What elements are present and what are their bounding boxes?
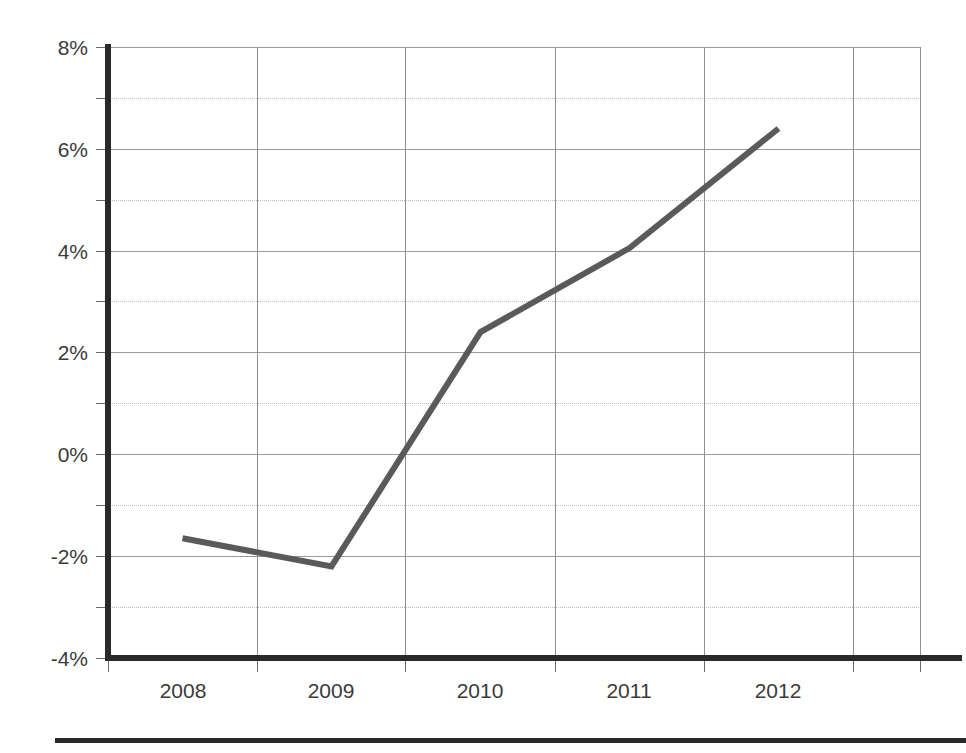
- y-tick-label: 6%: [58, 138, 88, 161]
- y-tick-label: -2%: [51, 545, 88, 568]
- x-tick-label: 2011: [606, 679, 651, 702]
- x-tick-label: 2010: [457, 679, 504, 702]
- chart-container: 8% 6% 4% 2% 0% -2% -4% 2008 2009 2010 20…: [0, 0, 966, 753]
- chart-background: [0, 0, 966, 753]
- x-tick-label: 2008: [160, 679, 207, 702]
- y-tick-label: 2%: [58, 341, 88, 364]
- y-tick-label: 8%: [58, 36, 88, 59]
- line-chart: 8% 6% 4% 2% 0% -2% -4% 2008 2009 2010 20…: [0, 0, 966, 753]
- y-tick-label: 0%: [58, 443, 88, 466]
- y-tick-label: -4%: [51, 647, 88, 670]
- x-tick-label: 2012: [755, 679, 802, 702]
- y-tick-label: 4%: [58, 240, 88, 263]
- x-tick-label: 2009: [308, 679, 355, 702]
